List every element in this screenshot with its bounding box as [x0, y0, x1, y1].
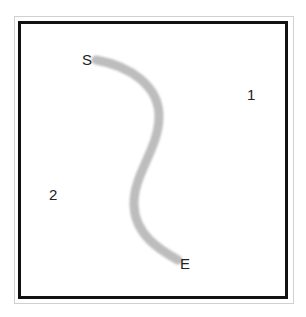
end-label: E	[180, 256, 190, 271]
region-1-label: 1	[247, 87, 255, 102]
curve-path	[0, 0, 306, 317]
region-2-label: 2	[49, 187, 57, 202]
start-label: S	[82, 52, 92, 67]
